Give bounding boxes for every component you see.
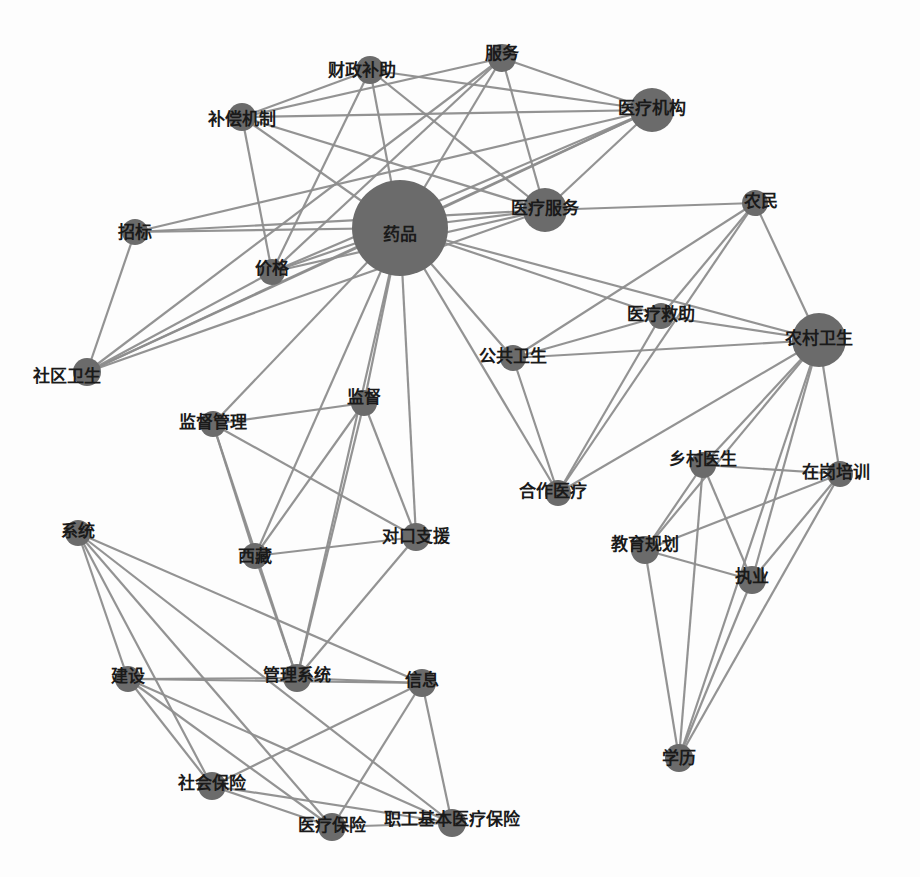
edge-xitong-shehuibaoxian bbox=[78, 533, 212, 786]
edge-nongmin-yiliaojiuzhu bbox=[661, 203, 755, 316]
network-graph-svg: 药品医疗服务医疗机构服务财政补助补偿机制招标价格社区卫生农民医疗救助农村卫生公共… bbox=[0, 0, 920, 877]
node-label-duikouzhiyuan: 对口支援 bbox=[382, 526, 451, 546]
node-label-xinxi: 信息 bbox=[405, 670, 439, 690]
edge-jianshe-yiliaobaoxian bbox=[128, 679, 332, 827]
edge-yiliaojigou-buchangjizhi bbox=[242, 110, 652, 117]
node-label-caizhengbuzhu: 财政补助 bbox=[327, 60, 396, 80]
edge-xizang-guanlixitong bbox=[255, 556, 297, 678]
node-label-jiandu: 监督 bbox=[347, 387, 381, 407]
edge-nongcunweisheng-jiaoyuguihua bbox=[645, 340, 819, 550]
node-label-nongcunweisheng: 农村卫生 bbox=[784, 328, 853, 348]
edge-jiandu-xizang bbox=[255, 403, 364, 556]
node-label-shequweisheng: 社区卫生 bbox=[32, 366, 101, 386]
edge-jianshe-shehuibaoxian bbox=[128, 679, 212, 786]
node-label-zhaobiao: 招标 bbox=[118, 222, 152, 242]
node-label-nongmin: 农民 bbox=[743, 191, 778, 211]
edge-yiliaojiuzhu-hezuoyiliao bbox=[558, 316, 661, 493]
node-label-zhigongjibenyiliaobaoxian: 职工基本医疗保险 bbox=[384, 809, 521, 829]
node-label-jianshe: 建设 bbox=[111, 666, 145, 686]
edge-xiangcunyisheng-zhiye bbox=[703, 465, 752, 580]
node-label-fuwu: 服务 bbox=[485, 43, 520, 63]
node-label-shehuibaoxian: 社会保险 bbox=[177, 773, 247, 793]
node-label-yiliaojiuzhu: 医疗救助 bbox=[627, 304, 695, 324]
node-label-yaopin: 药品 bbox=[383, 224, 417, 244]
edge-yiliaofuwu-shequweisheng bbox=[87, 210, 545, 372]
edge-yaopin-nongcunweisheng bbox=[400, 228, 819, 340]
node-label-jiage: 价格 bbox=[255, 258, 290, 278]
edge-nongcunweisheng-gonggongweisheng bbox=[513, 340, 819, 358]
edge-jiage-shequweisheng bbox=[87, 272, 272, 372]
node-label-yiliaojigou: 医疗机构 bbox=[618, 98, 686, 118]
edge-gonggongweisheng-hezuoyiliao bbox=[513, 358, 558, 493]
edge-jiaoyuguihua-xueli bbox=[645, 550, 679, 758]
edge-xiangcunyisheng-xueli bbox=[679, 465, 703, 758]
edge-jianshe-zhigongjibenyiliaobaoxian bbox=[128, 679, 452, 823]
edge-buchangjizhi-jiage bbox=[242, 117, 272, 272]
node-label-buchangjizhi: 补偿机制 bbox=[207, 109, 276, 129]
node-label-jianduguanli: 监督管理 bbox=[179, 412, 247, 432]
edge-xitong-jianshe bbox=[78, 533, 128, 679]
node-label-xueli: 学历 bbox=[662, 748, 696, 768]
edge-layer bbox=[78, 58, 840, 827]
node-label-xiangcunyisheng: 乡村医生 bbox=[669, 449, 737, 469]
node-label-jiaoyuguihua: 教育规划 bbox=[610, 534, 679, 554]
node-label-zaigangpeixun: 在岗培训 bbox=[802, 462, 870, 482]
edge-yiliaojigou-jiage bbox=[272, 110, 652, 272]
node-label-yiliaobaoxian: 医疗保险 bbox=[298, 815, 367, 835]
edge-yiliaofuwu-fuwu bbox=[502, 58, 545, 210]
node-label-xitong: 系统 bbox=[61, 521, 95, 541]
edge-zhiye-xueli bbox=[679, 580, 752, 758]
edge-jiandu-duikouzhiyuan bbox=[364, 403, 416, 537]
node-label-gonggongweisheng: 公共卫生 bbox=[479, 346, 547, 366]
node-label-hezuoyiliao: 合作医疗 bbox=[519, 481, 587, 501]
node-label-yiliaofuwu: 医疗服务 bbox=[511, 198, 580, 218]
node-label-guanlixitong: 管理系统 bbox=[263, 665, 331, 685]
network-diagram: 药品医疗服务医疗机构服务财政补助补偿机制招标价格社区卫生农民医疗救助农村卫生公共… bbox=[0, 0, 920, 877]
edge-zaigangpeixun-zhiye bbox=[752, 474, 840, 580]
node-label-xizang: 西藏 bbox=[238, 546, 272, 566]
node-label-zhiye: 执业 bbox=[735, 566, 769, 586]
